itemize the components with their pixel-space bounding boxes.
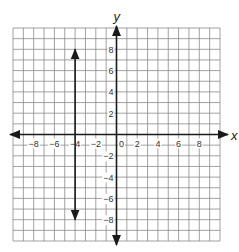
x-tick-label: −6 xyxy=(49,139,59,149)
x-tick-label: −8 xyxy=(29,139,39,149)
axes xyxy=(10,26,228,245)
x-tick-label: 4 xyxy=(155,139,160,149)
y-tick-label: 6 xyxy=(108,66,113,76)
x-tick-label: 0 xyxy=(119,139,124,149)
y-tick-label: 2 xyxy=(108,109,113,119)
y-axis-label: y xyxy=(113,9,122,24)
y-tick-label: 4 xyxy=(108,87,113,97)
x-tick-label: −2 xyxy=(91,139,101,149)
y-tick-label: −6 xyxy=(103,194,113,204)
x-axis-label: x xyxy=(230,128,238,143)
y-tick-label: −8 xyxy=(103,215,113,225)
coordinate-plane: −8−6−4−2024688642−2−4−6−8 x y xyxy=(0,0,239,252)
y-tick-label: 8 xyxy=(108,45,113,55)
x-tick-label: 6 xyxy=(176,139,181,149)
x-tick-label: 8 xyxy=(197,139,202,149)
y-tick-label: −4 xyxy=(103,173,113,183)
x-tick-label: 2 xyxy=(135,139,140,149)
y-tick-label: −2 xyxy=(103,151,113,161)
